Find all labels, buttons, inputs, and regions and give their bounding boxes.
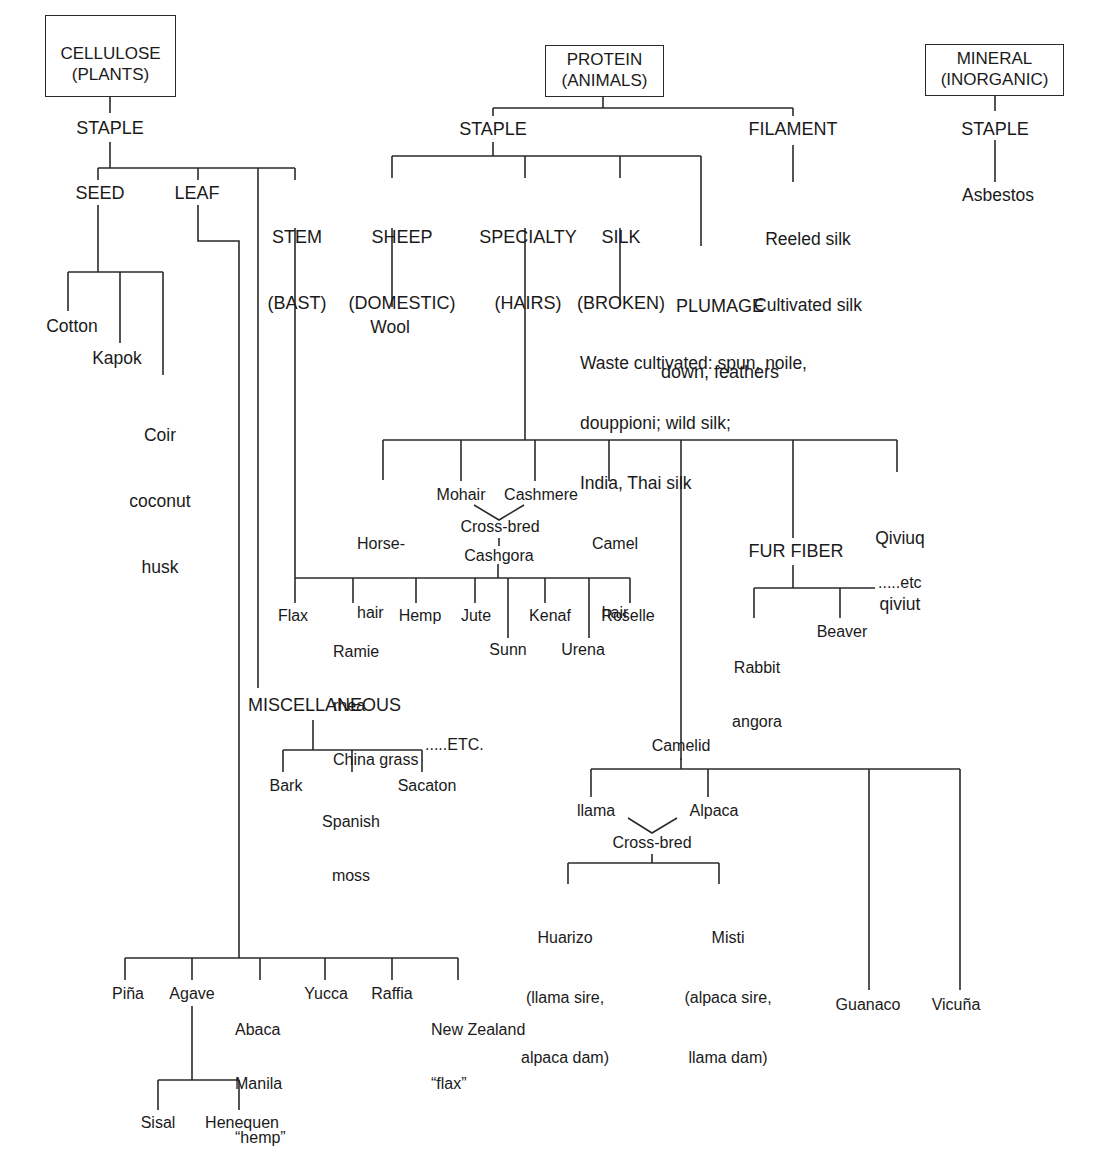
fur-item-rabbit-angora: Rabbit angora — [732, 623, 782, 767]
leaf-item-yucca: Yucca — [304, 985, 348, 1003]
ramie-line3: China grass — [333, 751, 418, 769]
spanish-moss-line2: moss — [322, 867, 380, 885]
root-cellulose-subtitle: (PLANTS) — [50, 64, 171, 85]
misc-item-sacaton: Sacaton — [398, 777, 457, 795]
root-cellulose-box: CELLULOSE (PLANTS) — [45, 15, 176, 97]
hair-item-qiviuq: Qiviuq qiviut — [875, 483, 925, 659]
misti-line2: (alpaca sire, — [684, 988, 771, 1008]
leaf-item-raffia: Raffia — [371, 985, 413, 1003]
misc-etc: .....ETC. — [425, 736, 484, 754]
root-mineral-subtitle: (INORGANIC) — [930, 69, 1059, 90]
stem-label: STEM (BAST) — [267, 182, 326, 358]
nz-flax-line2: “flax” — [431, 1075, 525, 1093]
hair-item-horsehair: Horse- hair — [357, 486, 405, 670]
nz-flax-line1: New Zealand — [431, 1021, 525, 1039]
sheep-line1: SHEEP — [349, 226, 456, 248]
abaca-line1: Abaca — [235, 1021, 286, 1039]
stem-item-jute: Jute — [461, 607, 491, 625]
root-protein-subtitle: (ANIMALS) — [550, 70, 659, 91]
rabbit-line1: Rabbit — [732, 659, 782, 677]
camelid-crossbred: Cross-bred — [612, 834, 691, 852]
fur-item-beaver: Beaver — [817, 623, 868, 641]
leaf-item-pina: Piña — [112, 985, 144, 1003]
camel-hair-line1: Camel — [592, 532, 638, 555]
spanish-moss-line1: Spanish — [322, 813, 380, 831]
root-mineral-title: MINERAL — [930, 48, 1059, 69]
seed-label: SEED — [75, 182, 124, 204]
mineral-item-asbestos: Asbestos — [962, 184, 1034, 206]
fur-fiber-label: FUR FIBER — [748, 540, 843, 562]
huarizo-line1: Huarizo — [521, 928, 609, 948]
hair-item-camel-hair: Camel hair — [592, 486, 638, 670]
misc-item-spanish-moss: Spanish moss — [322, 777, 380, 921]
camelid-item-alpaca: Alpaca — [690, 802, 739, 820]
stem-item-sunn: Sunn — [489, 641, 526, 659]
leaf-item-new-zealand-flax: New Zealand “flax” — [431, 985, 525, 1129]
fiber-classification-diagram: CELLULOSE (PLANTS) PROTEIN (ANIMALS) MIN… — [0, 0, 1102, 1155]
protein-staple-label: STAPLE — [459, 118, 527, 140]
seed-item-coir: Coir coconut husk — [129, 380, 190, 622]
stem-item-kenaf: Kenaf — [529, 607, 571, 625]
root-protein-box: PROTEIN (ANIMALS) — [545, 45, 664, 97]
seed-item-kapok: Kapok — [92, 347, 142, 369]
stem-label-line2: (BAST) — [267, 292, 326, 314]
agave-item-henequen: Henequen — [205, 1114, 279, 1132]
hair-item-cashmere: Cashmere — [504, 486, 578, 504]
root-protein-title: PROTEIN — [550, 49, 659, 70]
huarizo-line3: alpaca dam) — [521, 1048, 609, 1068]
misti-line1: Misti — [684, 928, 771, 948]
misc-item-bark: Bark — [270, 777, 303, 795]
camelid-item-llama: llama — [577, 802, 615, 820]
root-mineral-box: MINERAL (INORGANIC) — [925, 44, 1064, 96]
horsehair-line1: Horse- — [357, 532, 405, 555]
specialty-label: SPECIALTY (HAIRS) — [479, 182, 577, 358]
qiviuq-line1: Qiviuq — [875, 527, 925, 549]
leaf-label: LEAF — [174, 182, 219, 204]
hair-item-mohair: Mohair — [437, 486, 486, 504]
specialty-line2: (HAIRS) — [479, 292, 577, 314]
filament-reeled-silk: Reeled silk — [754, 228, 862, 250]
fur-fiber-etc: .....etc — [878, 574, 922, 592]
leaf-item-agave: Agave — [169, 985, 214, 1003]
cellulose-staple-label: STAPLE — [76, 117, 144, 139]
miscellaneous-label: MISCELLANEOUS — [248, 694, 401, 716]
camel-hair-line2: hair — [592, 601, 638, 624]
seed-item-cotton: Cotton — [46, 315, 98, 337]
agave-item-sisal: Sisal — [141, 1114, 176, 1132]
silk-line1: SILK — [577, 226, 665, 248]
camelid-item-guanaco: Guanaco — [836, 996, 901, 1014]
silk-line2: (BROKEN) — [577, 292, 665, 314]
coir-line3: husk — [129, 556, 190, 578]
misti-line3: llama dam) — [684, 1048, 771, 1068]
sheep-item-wool: Wool — [370, 316, 410, 338]
abaca-line2: Manila — [235, 1075, 286, 1093]
mineral-staple-label: STAPLE — [961, 118, 1029, 140]
silk-item-line2: douppioni; wild silk; — [580, 413, 807, 433]
stem-item-hemp: Hemp — [399, 607, 442, 625]
camelid-item-huarizo: Huarizo (llama sire, alpaca dam) — [521, 888, 609, 1108]
qiviuq-line2: qiviut — [875, 593, 925, 615]
specialty-line1: SPECIALTY — [479, 226, 577, 248]
rabbit-line2: angora — [732, 713, 782, 731]
huarizo-line2: (llama sire, — [521, 988, 609, 1008]
coir-line2: coconut — [129, 490, 190, 512]
stem-label-line1: STEM — [267, 226, 326, 248]
hair-item-cashgora: Cashgora — [464, 547, 533, 565]
camelid-label: Camelid — [652, 737, 711, 755]
stem-item-flax: Flax — [278, 607, 308, 625]
silk-item-line1: Waste cultivated: spun, noile, — [580, 353, 807, 373]
filament-label: FILAMENT — [748, 118, 837, 140]
coir-line1: Coir — [129, 424, 190, 446]
horsehair-line2: hair — [357, 601, 405, 624]
root-cellulose-title: CELLULOSE — [50, 43, 171, 64]
hair-item-crossbred: Cross-bred — [460, 518, 539, 536]
camelid-item-misti: Misti (alpaca sire, llama dam) — [684, 888, 771, 1108]
sheep-line2: (DOMESTIC) — [349, 292, 456, 314]
camelid-item-vicuna: Vicuña — [932, 996, 981, 1014]
